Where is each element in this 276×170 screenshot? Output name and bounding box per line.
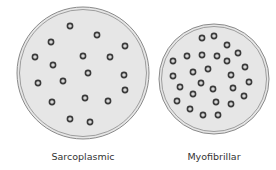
myofibril-dot — [246, 79, 251, 84]
myofibril-dot — [107, 54, 112, 59]
myofibril-dot — [170, 73, 175, 78]
myofibril-dot — [215, 112, 220, 117]
myofibril-dot — [199, 52, 204, 57]
myofibril-dot — [213, 99, 218, 104]
myofibril-dot — [67, 23, 72, 28]
myofibril-dot — [211, 33, 216, 38]
myofibril-dot — [230, 85, 235, 90]
outer-membrane — [159, 24, 269, 134]
myofibril-dot — [85, 70, 90, 75]
myofibril-dot — [214, 53, 219, 58]
myofibril-dot — [122, 87, 127, 92]
myofibril-dot — [60, 78, 65, 83]
myofibril-dot — [210, 86, 215, 91]
myofibril-dot — [200, 112, 205, 117]
myofibril-dot — [80, 53, 85, 58]
myofibril-dot — [174, 98, 179, 103]
myofibril-dot — [198, 80, 203, 85]
myofibril-dot — [241, 93, 246, 98]
label-sarcoplasmic: Sarcoplasmic — [43, 151, 123, 162]
myofibril-dot — [235, 50, 240, 55]
myofibril-dot — [94, 32, 99, 37]
myofibril-dot — [82, 95, 87, 100]
myofibril-dot — [205, 66, 210, 71]
myofibril-dot — [228, 72, 233, 77]
myofibril-dot — [87, 119, 92, 124]
myofibril-dot — [199, 35, 204, 40]
myofibril-dot — [105, 98, 110, 103]
label-myofibrillar: Myofibrillar — [174, 151, 254, 162]
myofibril-dot — [224, 42, 229, 47]
myofibril-dot — [50, 62, 55, 67]
myofibril-dot — [228, 101, 233, 106]
myofibril-dot — [187, 106, 192, 111]
myofibril-dot — [190, 91, 195, 96]
muscle-hypertrophy-diagram — [0, 0, 276, 170]
myofibril-dot — [224, 58, 229, 63]
myofibril-dot — [49, 99, 54, 104]
myofibril-dot — [190, 69, 195, 74]
myofibril-dot — [67, 116, 72, 121]
myofibril-dot — [35, 80, 40, 85]
cell-cross-section-sarcoplasmic — [17, 7, 149, 139]
myofibril-dot — [48, 39, 53, 44]
myofibril-dot — [170, 58, 175, 63]
cell-cross-section-myofibrillar — [159, 24, 269, 134]
myofibril-dot — [121, 72, 126, 77]
outer-membrane — [17, 7, 149, 139]
myofibril-dot — [122, 43, 127, 48]
myofibril-dot — [242, 64, 247, 69]
myofibril-dot — [184, 53, 189, 58]
myofibril-dot — [32, 54, 37, 59]
myofibril-dot — [177, 84, 182, 89]
